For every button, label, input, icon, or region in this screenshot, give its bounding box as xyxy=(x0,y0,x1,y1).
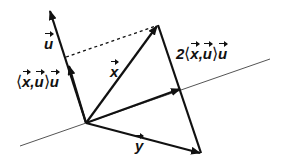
label-u: u xyxy=(44,36,53,51)
projection-vector-arrow xyxy=(69,66,86,123)
label-y: y xyxy=(135,138,143,153)
x-vector-arrow xyxy=(86,26,157,123)
reflection-diagram: u x y ⟨x,u⟩u 2⟨x,u⟩u xyxy=(0,0,287,166)
label-double-projection: 2⟨x,u⟩u xyxy=(176,46,227,62)
dotted-projection-line xyxy=(66,26,156,57)
plane-projection-arrow xyxy=(86,89,180,123)
label-x: x xyxy=(110,64,118,79)
label-projection: ⟨x,u⟩u xyxy=(16,74,59,90)
